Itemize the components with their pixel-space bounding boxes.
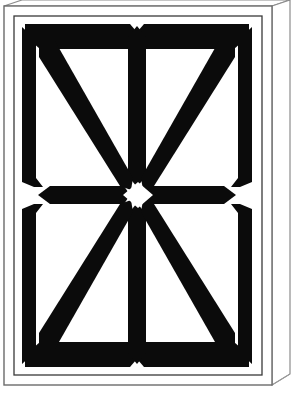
segment-G1-middle-left — [38, 186, 130, 204]
segment-G2-middle-right — [140, 186, 236, 204]
housing-depth-right-face — [272, 0, 290, 385]
segment-L-lower-center-vertical — [128, 203, 146, 364]
display-module-figure — [0, 0, 300, 396]
housing-depth-top-face — [4, 0, 290, 6]
segment-I-upper-center-vertical — [128, 26, 146, 187]
figure-root: 16-Segment Alphanumeric Display All segm… — [0, 0, 300, 396]
